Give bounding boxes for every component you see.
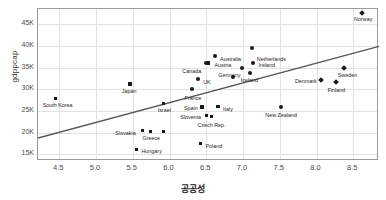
scatter-chart: gdppcap 공공성 NorwayNetherlandsAustraliaAu… <box>0 0 386 200</box>
data-point <box>205 114 208 117</box>
data-point-label: France <box>185 96 202 101</box>
data-point <box>200 105 203 108</box>
data-point-label: Austria <box>215 63 232 68</box>
data-point-label: Hungary <box>141 149 161 154</box>
data-point-label: Sweden <box>338 73 357 78</box>
data-point-label: Slovakia <box>115 131 135 136</box>
y-tick-label: 35K <box>10 63 34 70</box>
y-tick-label: 30K <box>10 84 34 91</box>
data-point <box>54 97 57 100</box>
x-tick-label: 8.5 <box>337 163 367 172</box>
data-point-label: Spain <box>184 106 198 111</box>
data-point <box>279 105 283 109</box>
y-tick-label: 20K <box>10 128 34 135</box>
data-point-label: Netherlands <box>257 57 286 62</box>
y-tick-label: 40K <box>10 41 34 48</box>
y-tick-label: 25K <box>10 106 34 113</box>
data-point <box>162 130 165 133</box>
data-point <box>250 46 254 50</box>
data-point <box>190 87 194 91</box>
x-tick-label: 5.0 <box>80 163 110 172</box>
x-tick-label: 6.5 <box>190 163 220 172</box>
data-point-label: Iceland <box>241 78 258 83</box>
data-point-label: Israel <box>158 108 171 113</box>
data-point-label: UK <box>203 80 211 85</box>
data-point-label: Finland <box>328 88 346 93</box>
data-point-label: Norway <box>354 17 372 22</box>
x-tick-label: 8.0 <box>301 163 331 172</box>
data-point-label: New Zealand <box>265 113 297 118</box>
data-point-label: Italy <box>223 107 233 112</box>
x-tick-label: 7.0 <box>227 163 257 172</box>
y-tick-label: 45K <box>10 19 34 26</box>
plot-area: NorwayNetherlandsAustraliaAustriaIreland… <box>37 8 378 160</box>
data-point <box>162 102 165 105</box>
data-point <box>128 82 131 85</box>
data-point-label: Czech Rep. <box>197 123 225 128</box>
data-point <box>141 129 144 132</box>
data-point-label: Greece <box>142 136 160 141</box>
data-point-label: Canada <box>182 69 201 74</box>
data-point-label: Germany <box>218 73 240 78</box>
data-point-label: Denmark <box>295 79 317 84</box>
data-point-label: Ireland <box>259 63 275 68</box>
data-point <box>199 142 202 145</box>
x-axis-title: 공공성 <box>0 182 386 195</box>
data-point-label: South Korea <box>43 103 73 108</box>
x-tick-label: 6.0 <box>154 163 184 172</box>
x-tick-label: 7.5 <box>264 163 294 172</box>
data-point <box>216 105 219 108</box>
y-tick-label: 15K <box>10 149 34 156</box>
data-point-label: Japan <box>122 89 137 94</box>
data-point <box>213 54 217 58</box>
x-tick-label: 4.5 <box>43 163 73 172</box>
data-point <box>248 71 252 75</box>
data-point <box>251 61 255 65</box>
x-tick-label: 5.5 <box>117 163 147 172</box>
data-point-label: Poland <box>205 144 222 149</box>
data-point <box>210 115 213 118</box>
data-point <box>135 148 138 151</box>
data-point-label: Slovenia <box>180 115 201 120</box>
data-point <box>149 130 152 133</box>
